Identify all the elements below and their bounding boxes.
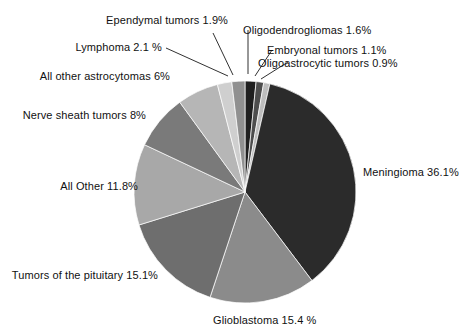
label-all-other-astrocytomas: All other astrocytomas 6% — [18, 70, 170, 83]
label-oligodendrogliomas: Oligodendrogliomas 1.6% — [243, 24, 371, 37]
pie-chart-figure: Ependymal tumors 1.9% Oligodendrogliomas… — [0, 0, 473, 336]
label-nerve-sheath-tumors: Nerve sheath tumors 8% — [18, 109, 146, 122]
leader-line-lymphoma — [166, 48, 228, 76]
label-all-other: All Other 11.8% — [18, 180, 138, 193]
label-tumors-of-the-pituitary: Tumors of the pituitary 15.1% — [6, 269, 158, 282]
pie-slices-group — [134, 81, 356, 303]
leader-line-ependymal — [213, 33, 233, 75]
label-ependymal-tumors: Ependymal tumors 1.9% — [92, 14, 228, 27]
label-embryonal-tumors: Embryonal tumors 1.1% — [267, 44, 386, 57]
label-meningioma: Meningioma 36.1% — [363, 166, 459, 179]
label-lymphoma: Lymphoma 2.1 % — [54, 41, 162, 54]
label-glioblastoma: Glioblastoma 15.4 % — [213, 314, 316, 327]
label-oligoastrocytic-tumors: Oligoastrocytic tumors 0.9% — [258, 57, 398, 70]
